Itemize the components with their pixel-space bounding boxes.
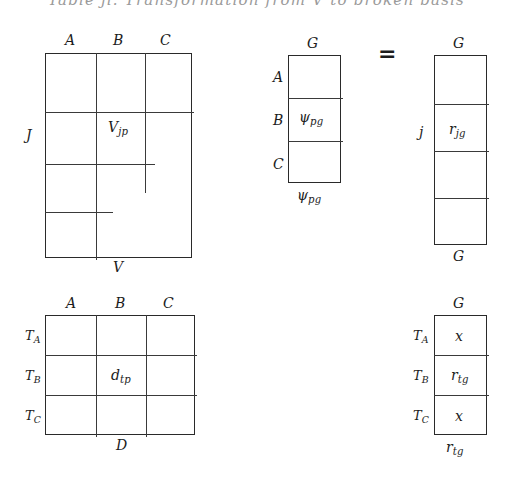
d-matrix-col-label-b: B [115,296,125,310]
d-matrix-cell-entry: dtp [111,368,131,385]
r-tg-matrix-cell-2-sub: tg [458,374,469,385]
d-matrix-row-label-tb-base: T [25,368,34,383]
r-jg-matrix-rule-h-2 [434,151,489,152]
r-tg-matrix-cell-1-base: x [455,328,463,344]
psi-matrix-row-label-b: B [273,113,283,127]
d-matrix-cell-base: d [111,367,120,383]
d-matrix-col-label-c: C [163,296,174,310]
psi-matrix-cell-sub: pg [310,116,323,127]
r-tg-matrix-row-label-tb: TB [413,369,429,384]
psi-matrix-bottom-label: ψpg [297,188,321,205]
d-matrix-bottom-label: D [116,438,127,452]
v-matrix-bottom-label: V [113,260,123,274]
d-matrix-col-label-a: A [66,296,76,310]
r-jg-matrix-rule-h-3 [434,198,489,199]
d-matrix-rule-h-2 [45,395,197,396]
v-matrix-col-label-a: A [65,33,75,47]
r-jg-matrix-frame [434,55,487,245]
psi-matrix-cell-entry: ψpg [299,110,323,127]
d-matrix-row-label-ta-sub: A [34,334,41,345]
r-tg-matrix-rule-h-1 [434,355,489,356]
psi-matrix-rule-h-1 [288,98,343,99]
v-matrix-row-label-j: J [26,128,32,142]
r-tg-matrix-row-label-ta-sub: A [422,334,429,345]
d-matrix-row-label-tc-sub: C [34,414,41,425]
r-tg-matrix-row-label-ta-base: T [413,328,422,343]
psi-matrix-rule-h-2 [288,141,343,142]
psi-matrix-top-label: G [307,36,318,50]
r-tg-matrix-bottom-base: r [446,439,453,455]
r-tg-matrix-bottom-sub: tg [453,446,464,457]
v-matrix-frame [45,53,192,258]
r-tg-matrix-cell-1: x [455,329,463,346]
r-tg-matrix-top-label: G [453,296,464,310]
figure-canvas: Table ji. Transformation from V to broke… [0,0,513,499]
r-jg-matrix-bottom-label: G [453,249,464,263]
v-matrix-cell-entry: Vjp [108,120,128,137]
r-jg-matrix-cell-sub: jg [456,128,466,139]
d-matrix-rule-v-2 [146,315,147,437]
r-tg-matrix-cell-2: rtg [451,368,469,385]
d-matrix-rule-v-1 [96,315,97,437]
equals-sign: = [378,42,396,64]
v-matrix-cell-base: V [108,119,118,135]
r-tg-matrix-row-label-tb-base: T [413,368,422,383]
psi-matrix-bottom-base: ψ [297,187,308,203]
r-jg-matrix-row-label: j [419,125,423,139]
r-tg-matrix-row-label-tc-base: T [413,408,422,423]
d-matrix-row-label-tc: TC [25,409,41,424]
v-matrix-rule-v-2 [145,53,146,193]
d-matrix-row-label-ta-base: T [25,328,34,343]
top-caption: Table ji. Transformation from V to broke… [0,0,513,11]
v-matrix-col-label-b: B [113,33,123,47]
psi-matrix-bottom-sub: pg [308,194,321,205]
d-matrix-row-label-tc-base: T [25,408,34,423]
psi-matrix-row-label-c: C [273,157,284,171]
r-tg-matrix-cell-2-base: r [451,367,458,383]
r-tg-matrix-row-label-tb-sub: B [422,374,429,385]
r-tg-matrix-rule-h-2 [434,395,489,396]
r-jg-matrix-cell-base: r [449,121,456,137]
d-matrix-row-label-ta: TA [25,329,41,344]
d-matrix-cell-sub: tp [120,374,131,385]
r-tg-matrix-cell-3-base: x [455,408,463,424]
r-tg-matrix-row-label-tc: TC [413,409,429,424]
psi-matrix-row-label-a: A [273,70,283,84]
r-jg-matrix-top-label: G [453,36,464,50]
r-jg-matrix-rule-h-1 [434,104,489,105]
v-matrix-rule-h-3 [45,212,113,213]
v-matrix-cell-sub: jp [118,126,128,137]
v-matrix-rule-v-1 [96,53,97,260]
d-matrix-rule-h-1 [45,355,197,356]
r-tg-matrix-row-label-ta: TA [413,329,429,344]
v-matrix-rule-h-2 [45,164,155,165]
v-matrix-rule-h-1 [45,112,194,113]
r-jg-matrix-cell-entry: rjg [449,122,466,139]
r-tg-matrix-bottom-label: rtg [446,440,464,457]
d-matrix-row-label-tb: TB [25,369,41,384]
v-matrix-col-label-c: C [160,33,171,47]
r-tg-matrix-cell-3: x [455,409,463,426]
psi-matrix-cell-base: ψ [299,109,310,125]
r-tg-matrix-row-label-tc-sub: C [422,414,429,425]
d-matrix-row-label-tb-sub: B [34,374,41,385]
